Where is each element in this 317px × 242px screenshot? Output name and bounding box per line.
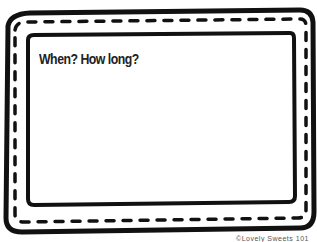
doodle-frame — [0, 0, 317, 242]
prompt-text: When? How long? — [39, 50, 139, 67]
credit-text: ©Lovely Sweets 101 — [236, 235, 309, 242]
